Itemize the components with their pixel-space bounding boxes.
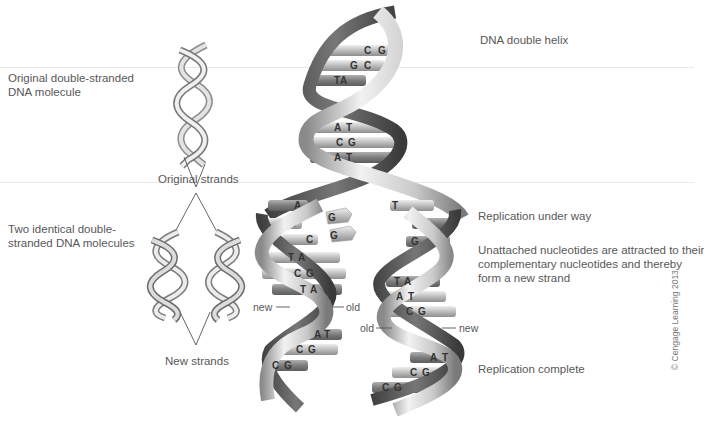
svg-text:G: G (350, 60, 358, 71)
svg-text:A: A (314, 329, 321, 340)
svg-text:A: A (334, 152, 341, 163)
label-line: Original double-stranded (8, 71, 134, 85)
new-molecules-pointer-lines (175, 193, 217, 345)
svg-text:G: G (328, 212, 336, 223)
svg-text:T: T (392, 200, 398, 211)
label-new-strands: New strands (165, 354, 229, 368)
svg-text:G: G (422, 367, 430, 378)
svg-text:A: A (340, 75, 347, 86)
main-parent-helix: C G G C T A A T C G A T (268, 12, 462, 218)
label-line: DNA molecule (8, 85, 134, 99)
svg-text:G: G (284, 360, 292, 371)
svg-text:C: C (406, 306, 413, 317)
svg-text:A: A (298, 252, 305, 263)
svg-text:T: T (288, 252, 294, 263)
svg-text:T: T (346, 152, 352, 163)
label-original-strands: Original strands (158, 172, 239, 186)
svg-text:T: T (442, 352, 448, 363)
svg-text:A: A (334, 122, 341, 133)
svg-text:C: C (364, 60, 371, 71)
svg-text:C: C (336, 137, 343, 148)
svg-text:T: T (408, 291, 414, 302)
label-left-old: old (346, 300, 360, 314)
label-two-identical-molecules: Two identical double- stranded DNA molec… (8, 222, 135, 250)
label-replication-complete: Replication complete (478, 362, 585, 376)
svg-text:G: G (330, 230, 338, 241)
label-original-molecule: Original double-stranded DNA molecule (8, 71, 134, 99)
label-line: complementary nucleotides and thereby (478, 257, 704, 271)
svg-text:T: T (324, 329, 330, 340)
label-right-old: old (360, 321, 374, 335)
svg-text:C: C (306, 234, 313, 245)
copyright-notice: © Cengage Learning 2013 (670, 270, 680, 370)
label-line: Unattached nucleotides are attracted to … (478, 243, 704, 257)
svg-text:G: G (418, 306, 426, 317)
small-daughter-helix-right-icon (209, 232, 242, 320)
small-daughter-helix-left-icon (150, 232, 185, 320)
svg-text:T: T (300, 284, 306, 295)
label-line: Two identical double- (8, 222, 135, 236)
label-right-new: new (459, 321, 478, 335)
svg-text:A: A (396, 291, 403, 302)
svg-text:G: G (308, 344, 316, 355)
svg-text:G: G (306, 268, 314, 279)
svg-text:G: G (348, 137, 356, 148)
svg-text:A: A (404, 276, 411, 287)
svg-text:C: C (364, 45, 371, 56)
svg-text:C: C (410, 367, 417, 378)
svg-text:T: T (394, 276, 400, 287)
svg-text:T: T (346, 122, 352, 133)
svg-text:C: C (294, 268, 301, 279)
label-replication-under-way: Replication under way (478, 209, 591, 223)
label-line: stranded DNA molecules (8, 236, 135, 250)
svg-text:C: C (382, 382, 389, 393)
svg-text:G: G (394, 382, 402, 393)
label-left-new: new (253, 300, 272, 314)
svg-text:C: C (296, 344, 303, 355)
svg-text:G: G (378, 45, 386, 56)
svg-text:A: A (430, 352, 437, 363)
svg-text:A: A (310, 284, 317, 295)
free-nucleotides: G G (326, 208, 356, 242)
small-original-helix-icon (177, 45, 210, 166)
label-dna-double-helix: DNA double helix (480, 33, 568, 47)
svg-text:C: C (272, 360, 279, 371)
